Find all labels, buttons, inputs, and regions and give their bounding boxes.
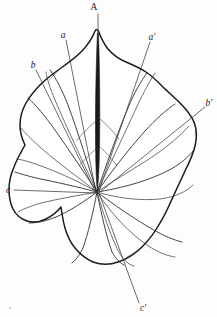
label-b-prime: b'	[206, 98, 214, 108]
leaf-outline	[9, 30, 196, 265]
leaf-diagram: A a a' b b' c c'	[0, 0, 217, 317]
page-speck	[9, 307, 11, 309]
figure-container: A a a' b b' c c'	[0, 0, 217, 317]
label-b: b	[31, 60, 36, 70]
label-a-prime: a'	[149, 32, 157, 42]
label-apex: A	[91, 2, 98, 12]
label-c-prime: c'	[140, 303, 147, 313]
label-a: a	[61, 30, 66, 40]
